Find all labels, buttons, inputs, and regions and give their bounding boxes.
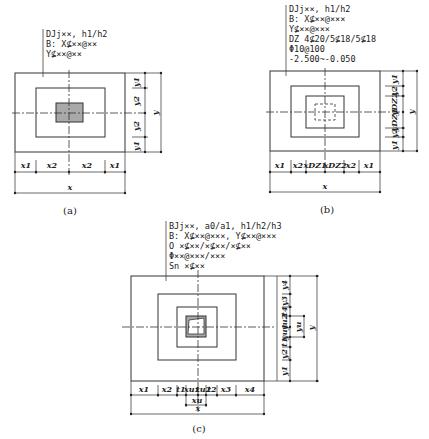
cup-opening-c [188, 318, 204, 334]
dim-b-x1-left: x1 [274, 160, 285, 170]
dim-b-x-total: x [322, 181, 328, 191]
annotation-b-line1: DJj××, h1/h2 [289, 4, 350, 14]
dim-c-y1: y1 [279, 366, 289, 377]
caption-b: (b) [320, 204, 334, 215]
annotation-b-line2: B: X⊈××@××× [289, 14, 345, 24]
dim-c-t2-x: t2 [207, 384, 217, 394]
dim-c-x3: x3 [220, 384, 232, 394]
dim-a-y1-bot: y1 [131, 141, 141, 152]
dim-a-y-total: y [150, 109, 160, 116]
dim-b-x2-left: x2 [292, 160, 304, 170]
annotation-a-line3: Y⊈××@×× [46, 49, 82, 59]
dim-a-x1-right: x1 [109, 160, 120, 170]
dim-a-x2-left: x2 [46, 160, 58, 170]
foundation-diagrams: DJj××, h1/h2 B: X⊈××@×× Y⊈××@×× y1 y2 y2… [0, 0, 429, 439]
annotation-c-line4: Φ××@×××/××× [169, 251, 225, 261]
dim-a-x2-right: x2 [81, 160, 93, 170]
dim-c-x1: x1 [138, 384, 149, 394]
annotation-b-line6: -2.500~-0.050 [289, 54, 356, 64]
dim-a-y1-top: y1 [131, 77, 141, 88]
dim-b-y-total: y [406, 108, 416, 115]
dim-a-y2-bot: y2 [131, 120, 141, 132]
figure-a: DJj××, h1/h2 B: X⊈××@×× Y⊈××@×× y1 y2 y2… [12, 29, 162, 216]
dim-b-y2-bot: y2 [389, 127, 399, 139]
caption-a: (a) [63, 205, 77, 216]
annotation-a-line2: B: X⊈××@×× [46, 39, 97, 49]
dim-b-x1-right: x1 [363, 160, 374, 170]
dim-c-y2: y2 [279, 348, 289, 360]
annotation-c-line5: Sn ×⊈×× [169, 261, 205, 271]
dim-c-y-total: y [306, 324, 316, 331]
annotation-a-line1: DJj××, h1/h2 [46, 29, 107, 39]
dim-b-y1-bot: y1 [389, 140, 399, 151]
dim-c-yu: yu [293, 322, 303, 334]
annotation-c-line2: B: X⊈××@×××, Y⊈××@××× [169, 231, 276, 241]
dim-b-x2-right: x2 [345, 160, 357, 170]
dim-b-y1-top: y1 [389, 74, 399, 85]
dim-a-x1-left: x1 [20, 160, 31, 170]
dim-a-x-total: x [67, 182, 73, 192]
annotation-b-line4: DZ 4⊈20/5⊈18/5⊈18 [289, 34, 376, 44]
dim-a-y2-top: y2 [131, 95, 141, 107]
dim-c-x-total: x [195, 403, 201, 413]
dim-c-y4: y4 [279, 279, 289, 291]
dim-c-x2: x2 [161, 384, 173, 394]
dim-c-y3: y3 [279, 295, 289, 307]
column-a [56, 103, 83, 122]
caption-c: (c) [192, 423, 206, 434]
dim-c-t1: t1 [279, 337, 289, 346]
annotation-b-line5: Φ10@100 [289, 44, 325, 54]
annotation-b-line3: Y⊈××@××× [289, 24, 330, 34]
dim-b-xdz2: xDZ2 [322, 160, 347, 170]
annotation-c-line1: BJj××, a0/a1, h1/h2/h3 [169, 221, 282, 231]
figure-b: DJj××, h1/h2 B: X⊈××@××× Y⊈××@××× DZ 4⊈2… [266, 4, 418, 215]
annotation-c-line3: O ×⊈××/×⊈××/×⊈×× [169, 241, 251, 251]
dim-c-x4: x4 [244, 384, 256, 394]
